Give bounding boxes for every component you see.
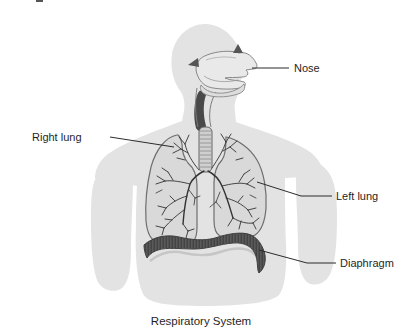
figure-respiratory-system: Nose Right lung Left lung Diaphragm Resp… [0, 0, 409, 333]
trachea-tube [199, 127, 212, 172]
body-right-arm-shape [291, 149, 337, 285]
nose-label: Nose [294, 62, 320, 74]
right-lung-label: Right lung [32, 131, 82, 143]
trachea [199, 127, 212, 172]
left-lung-label: Left lung [336, 190, 378, 202]
diaphragm-label: Diaphragm [340, 257, 394, 269]
figure-caption: Respiratory System [151, 315, 251, 327]
scan-artifact [36, 0, 43, 2]
respiratory-diagram: Nose Right lung Left lung Diaphragm Resp… [0, 0, 409, 333]
